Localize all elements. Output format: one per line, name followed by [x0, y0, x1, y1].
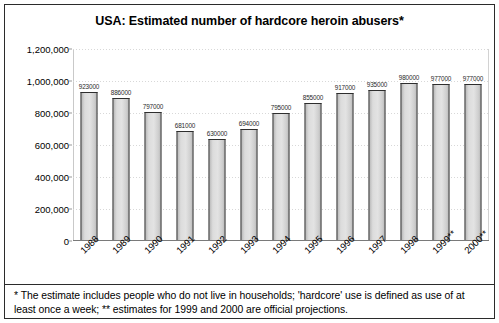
bar[interactable] — [433, 84, 450, 240]
bar-value-label: 797000 — [143, 103, 163, 110]
y-axis-tick-label: 200,000 — [7, 204, 69, 215]
bar[interactable] — [113, 98, 130, 240]
chart-frame: USA: Estimated number of hardcore heroin… — [4, 4, 495, 319]
bar[interactable] — [177, 131, 194, 240]
plot-area: 9230008860007970006810006300006940007950… — [73, 49, 489, 241]
footnote-text: * The estimate includes people who do no… — [14, 289, 486, 316]
bar[interactable] — [241, 129, 258, 240]
bar-value-label: 630000 — [207, 130, 227, 137]
y-axis-tick-mark — [69, 81, 72, 82]
x-axis: 1988198919901991199219931994199519961997… — [73, 242, 489, 286]
bar-value-label: 977000 — [463, 75, 483, 82]
bar-slot: 917000 — [329, 48, 361, 240]
bar-slot: 855000 — [297, 48, 329, 240]
bar-slot: 935000 — [361, 48, 393, 240]
y-axis-tick-label: 600,000 — [7, 140, 69, 151]
y-axis: 0200,000400,000600,000800,0001,000,0001,… — [5, 49, 69, 241]
bar[interactable] — [273, 113, 290, 240]
y-axis-tick-label: 400,000 — [7, 172, 69, 183]
bar[interactable] — [401, 83, 418, 240]
bar-slot: 923000 — [73, 48, 105, 240]
y-axis-tick-label: 0 — [7, 236, 69, 247]
bar-value-label: 977000 — [431, 75, 451, 82]
bar[interactable] — [81, 92, 98, 240]
bar-value-label: 795000 — [271, 104, 291, 111]
y-axis-tick-label: 1,000,000 — [7, 76, 69, 87]
bar-slot: 797000 — [137, 48, 169, 240]
chart-title: USA: Estimated number of hardcore heroin… — [5, 14, 494, 28]
y-axis-tick-mark — [69, 241, 72, 242]
bar-value-label: 917000 — [335, 84, 355, 91]
bar-value-label: 935000 — [367, 81, 387, 88]
bar-slot: 694000 — [233, 48, 265, 240]
bar-value-label: 694000 — [239, 120, 259, 127]
bar[interactable] — [465, 84, 482, 240]
footnote-divider — [5, 284, 494, 285]
bar-value-label: 980000 — [399, 74, 419, 81]
bar[interactable] — [337, 93, 354, 240]
bar-slot: 630000 — [201, 48, 233, 240]
bar[interactable] — [209, 139, 226, 240]
bar-value-label: 886000 — [111, 89, 131, 96]
bar-slot: 795000 — [265, 48, 297, 240]
bar[interactable] — [145, 112, 162, 240]
y-axis-tick-label: 800,000 — [7, 108, 69, 119]
bar-slot: 977000 — [457, 48, 489, 240]
bar-value-label: 855000 — [303, 94, 323, 101]
bar-slot: 886000 — [105, 48, 137, 240]
y-axis-tick-mark — [69, 145, 72, 146]
bar-value-label: 923000 — [79, 83, 99, 90]
bar-slot: 977000 — [425, 48, 457, 240]
y-axis-tick-label: 1,200,000 — [7, 44, 69, 55]
y-axis-tick-mark — [69, 49, 72, 50]
bar[interactable] — [369, 90, 386, 240]
bar-slot: 980000 — [393, 48, 425, 240]
bar-value-label: 681000 — [175, 122, 195, 129]
bar-slot: 681000 — [169, 48, 201, 240]
y-axis-tick-mark — [69, 177, 72, 178]
bar[interactable] — [305, 103, 322, 240]
y-axis-tick-mark — [69, 113, 72, 114]
y-axis-tick-mark — [69, 209, 72, 210]
